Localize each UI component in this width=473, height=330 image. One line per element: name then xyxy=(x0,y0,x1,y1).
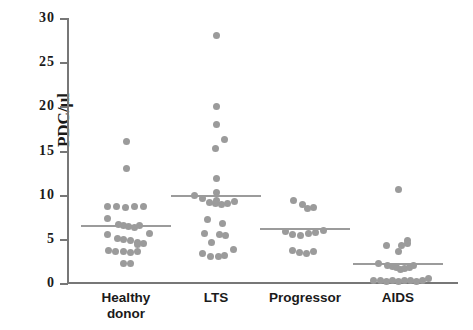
scatter-plot-figure: PDC/µl 051015202530 HealthydonorLTSProgr… xyxy=(0,0,473,330)
y-tick-label: 0 xyxy=(47,276,55,290)
y-tick-label: 30 xyxy=(39,11,55,25)
y-tick-label: 15 xyxy=(39,144,55,158)
y-tick-mark xyxy=(60,195,68,197)
mean-line xyxy=(353,263,443,265)
y-tick-mark xyxy=(60,18,68,20)
mean-line xyxy=(260,228,350,230)
x-axis-label-aids: AIDS xyxy=(338,290,458,306)
y-tick-label: 10 xyxy=(39,188,55,202)
y-tick-label: 5 xyxy=(47,232,55,246)
mean-lines-layer xyxy=(68,18,458,283)
y-tick-mark xyxy=(60,151,68,153)
plot-area xyxy=(68,18,458,283)
mean-line xyxy=(171,195,261,197)
y-tick-mark xyxy=(60,283,68,285)
y-tick-mark xyxy=(60,106,68,108)
x-axis-label-line: donor xyxy=(66,306,186,322)
y-tick-label: 25 xyxy=(39,55,55,69)
y-tick-label: 20 xyxy=(39,99,55,113)
mean-line xyxy=(81,225,171,227)
y-tick-mark xyxy=(60,239,68,241)
x-axis-label-line: AIDS xyxy=(338,290,458,306)
y-tick-mark xyxy=(60,62,68,64)
